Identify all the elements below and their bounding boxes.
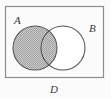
set-a-label: A bbox=[14, 15, 21, 26]
set-b-label: B bbox=[89, 23, 96, 34]
universal-set-label: D bbox=[50, 84, 58, 95]
venn-diagram-figure: A B D bbox=[0, 0, 111, 99]
